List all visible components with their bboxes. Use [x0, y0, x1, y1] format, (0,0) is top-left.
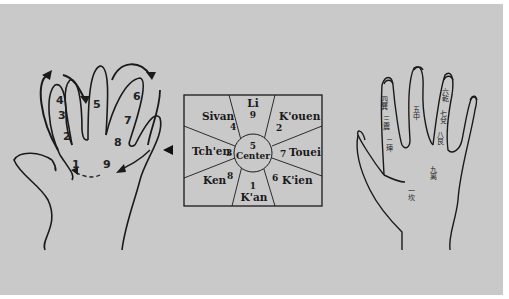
- finger-number: 1: [72, 158, 80, 171]
- hand-label-kun: 二坤: [385, 138, 394, 153]
- finger-number: 9: [103, 158, 111, 171]
- finger-number: 4: [56, 94, 64, 107]
- sector-kan-name: K'an: [241, 191, 268, 203]
- sector-li-number: 9: [250, 110, 256, 120]
- hand-label-qian: 六乾: [441, 87, 450, 103]
- sector-tchen-number: 3: [226, 148, 232, 158]
- diagram-canvas: 4 3 2 5 6 7 8 1 9 5 Center Li 9 K'ouen 2…: [0, 0, 509, 299]
- finger-number: 8: [114, 136, 122, 149]
- hand-label-kan: 一坎: [407, 187, 416, 202]
- sector-kien-number: 6: [272, 173, 278, 183]
- center-label: Center: [236, 151, 270, 161]
- hand-label-gen: 八艮: [436, 131, 445, 146]
- left-hand-numbers: 4 3 2 5 6 7 8 1 9: [56, 90, 141, 171]
- sector-kouen-name: K'ouen: [279, 110, 321, 122]
- sector-tchen-name: Tch'en: [192, 145, 231, 157]
- finger-number: 5: [93, 98, 101, 111]
- finger-number: 6: [133, 90, 141, 103]
- sector-touei-number: 7: [280, 149, 286, 159]
- right-hand: [357, 67, 477, 250]
- sector-ken-name: Ken: [203, 174, 227, 186]
- sector-ken-number: 8: [227, 171, 233, 181]
- finger-number: 3: [58, 109, 66, 122]
- hand-label-zhen: 三震: [382, 116, 391, 131]
- sector-kan-number: 1: [250, 181, 256, 191]
- sector-kouen-number: 2: [276, 123, 282, 133]
- hand-label-center: 五中: [412, 106, 421, 121]
- sector-li-name: Li: [247, 97, 258, 109]
- sector-kien-name: K'ien: [282, 174, 313, 186]
- hand-label-li: 九离: [429, 165, 438, 181]
- right-hand-labels: 四巽 三震 二坤 五中 六乾 七兌 八艮 九离 一坎: [380, 87, 450, 202]
- center-number: 5: [250, 141, 256, 151]
- pointer-triangle-icon: [163, 145, 173, 155]
- sector-sivan-number: 4: [230, 122, 236, 132]
- sector-sivan-name: Sivan: [202, 110, 234, 122]
- hand-label-xun: 四巽: [380, 96, 389, 111]
- sector-touei-name: Touei: [289, 146, 321, 158]
- bagua-square: 5 Center Li 9 K'ouen 2 Touei 7 K'ien 6 K…: [184, 95, 322, 206]
- hand-label-dui: 七兌: [439, 109, 448, 125]
- finger-number: 2: [63, 130, 71, 143]
- finger-number: 7: [124, 114, 132, 127]
